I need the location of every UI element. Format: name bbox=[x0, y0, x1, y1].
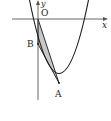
x-axis-label: x bbox=[102, 20, 107, 30]
point-b-label: B bbox=[27, 39, 34, 49]
y-axis-label: y bbox=[40, 0, 46, 8]
y-axis-arrow-icon bbox=[36, 0, 40, 5]
shaded-triangle-oab bbox=[38, 19, 59, 83]
diagram-canvas: y O x B A bbox=[0, 0, 111, 121]
origin-label: O bbox=[41, 8, 48, 18]
point-a-label: A bbox=[54, 89, 62, 99]
point-a bbox=[58, 82, 60, 84]
point-b bbox=[37, 43, 39, 45]
